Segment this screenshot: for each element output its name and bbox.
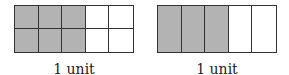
unshaded-cell bbox=[229, 6, 253, 52]
unshaded-cell bbox=[109, 29, 133, 52]
unit-label-right: 1 unit bbox=[157, 62, 277, 75]
shaded-cell bbox=[15, 29, 39, 52]
shaded-cell bbox=[15, 6, 39, 29]
unshaded-cell bbox=[109, 6, 133, 29]
unshaded-cell bbox=[252, 6, 276, 52]
shaded-cell bbox=[182, 6, 206, 52]
shaded-cell bbox=[158, 6, 182, 52]
shaded-cell bbox=[39, 29, 63, 52]
unshaded-cell bbox=[86, 29, 110, 52]
shaded-cell bbox=[62, 6, 86, 29]
unshaded-cell bbox=[86, 6, 110, 29]
unit-label-left: 1 unit bbox=[14, 62, 134, 75]
shaded-cell bbox=[62, 29, 86, 52]
fraction-diagram-right bbox=[157, 5, 277, 53]
fraction-diagram-left bbox=[14, 5, 134, 53]
shaded-cell bbox=[39, 6, 63, 29]
shaded-cell bbox=[205, 6, 229, 52]
